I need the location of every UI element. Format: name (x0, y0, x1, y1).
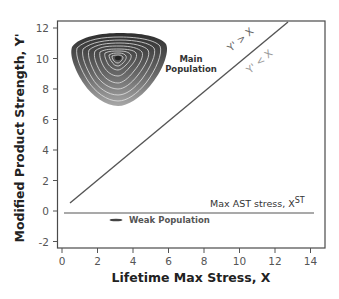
y-tick-label: 0 (42, 205, 49, 217)
y-tick-label: 12 (36, 22, 49, 34)
main-population-blob (71, 33, 167, 106)
x-axis-tick-labels: 0 2 4 6 8 10 12 14 (59, 255, 318, 267)
y-axis-ticks (53, 28, 58, 242)
chart: 12 10 8 6 4 2 0 -2 0 2 4 6 8 10 12 14 Li… (0, 0, 339, 299)
y-tick-label: 2 (42, 175, 49, 187)
y-tick-label: 10 (36, 53, 49, 65)
x-tick-label: 2 (94, 255, 101, 267)
y-tick-label: 6 (42, 114, 49, 126)
x-tick-label: 8 (201, 255, 208, 267)
y-tick-label: -2 (39, 236, 49, 248)
x-tick-label: 4 (130, 255, 137, 267)
weak-population-blob (110, 219, 123, 222)
y-tick-label: 4 (42, 144, 49, 156)
main-population-label: Main (179, 54, 202, 64)
main-population-label: Population (165, 64, 217, 74)
y-axis-label: Modified Product Strength, Y' (12, 33, 27, 242)
weak-population-label: Weak Population (129, 215, 210, 225)
x-axis-label: Lifetime Max Stress, X (112, 270, 271, 285)
y-axis-tick-labels: 12 10 8 6 4 2 0 -2 (36, 22, 50, 248)
max-ast-stress-label: Max AST stress, XST (210, 196, 305, 209)
x-tick-label: 0 (59, 255, 66, 267)
x-axis-ticks (62, 248, 311, 253)
x-tick-label: 6 (165, 255, 172, 267)
y-tick-label: 8 (42, 83, 49, 95)
y-lt-x-label: Y' < X (243, 47, 274, 76)
y-gt-x-label: Y' > X (224, 25, 255, 54)
x-tick-label: 12 (268, 255, 281, 267)
x-tick-label: 14 (304, 255, 318, 267)
x-tick-label: 10 (233, 255, 246, 267)
